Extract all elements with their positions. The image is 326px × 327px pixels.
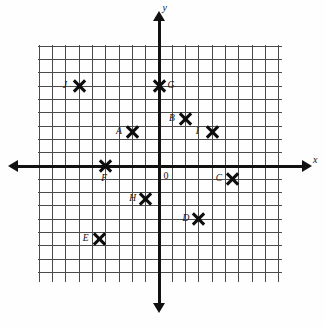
y-axis-arrow-down: [153, 303, 165, 313]
point-marker-x-icon: [137, 191, 153, 207]
grid-line-vertical: [119, 45, 120, 282]
grid-line-vertical: [185, 45, 186, 282]
grid-line-vertical: [52, 45, 53, 282]
point-marker-x-icon: [151, 78, 167, 94]
point-label-a: A: [116, 126, 122, 136]
point-label-c: C: [216, 173, 222, 183]
x-axis-arrow-right: [302, 160, 312, 172]
point-label-d: D: [182, 213, 189, 223]
origin-label: 0: [164, 170, 169, 181]
grid-line-vertical: [132, 45, 133, 282]
grid-line-vertical: [278, 45, 279, 282]
x-axis-label: x: [313, 154, 317, 165]
y-axis: [158, 20, 161, 303]
grid-line-vertical: [265, 45, 266, 282]
point-label-j: J: [63, 80, 67, 90]
grid-line-vertical: [252, 45, 253, 282]
grid-line-vertical: [238, 45, 239, 282]
point-label-h: H: [129, 193, 136, 203]
coordinate-plane: xy0ABCDEFGHIJ: [0, 0, 326, 327]
y-axis-label: y: [163, 2, 167, 13]
point-label-g: G: [168, 80, 175, 90]
grid-line-vertical: [212, 45, 213, 282]
point-label-e: E: [83, 233, 89, 243]
point-marker-x-icon: [124, 124, 140, 140]
grid-line-vertical: [198, 45, 199, 282]
grid-line-vertical: [225, 45, 226, 282]
grid-line-vertical: [145, 45, 146, 282]
point-label-i: I: [196, 126, 199, 136]
point-marker-x-icon: [177, 111, 193, 127]
point-marker-x-icon: [71, 78, 87, 94]
point-marker-x-icon: [91, 231, 107, 247]
point-marker-x-icon: [97, 158, 113, 174]
point-label-f: F: [101, 173, 107, 183]
point-label-b: B: [169, 113, 175, 123]
grid-line-vertical: [39, 45, 40, 282]
point-marker-x-icon: [190, 211, 206, 227]
x-axis-arrow-left: [8, 160, 18, 172]
point-marker-x-icon: [224, 171, 240, 187]
point-marker-x-icon: [204, 124, 220, 140]
